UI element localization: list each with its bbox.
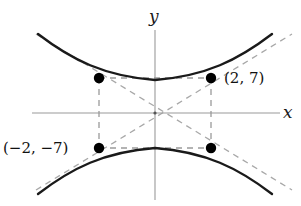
point-upper-left: [94, 73, 104, 83]
figure-canvas: [0, 0, 301, 206]
point-upper-right: [206, 73, 216, 83]
x-axis-label: x: [283, 104, 293, 121]
hyperbola-figure: y x (2, 7) (−2, −7): [0, 0, 301, 206]
point-lower-left: [94, 143, 104, 153]
point-lower-right: [206, 143, 216, 153]
origin-marker: [153, 111, 156, 114]
y-axis-label: y: [149, 8, 159, 25]
point-label-lower-left: (−2, −7): [3, 141, 68, 156]
point-label-upper-right: (2, 7): [224, 71, 264, 86]
